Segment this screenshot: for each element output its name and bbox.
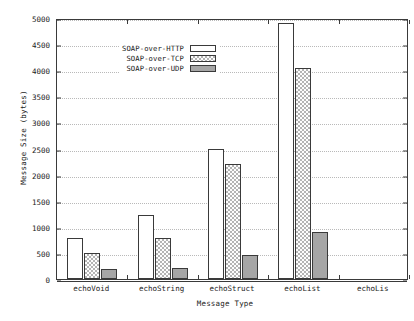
bar	[295, 68, 311, 279]
y-tick-label: 500	[0, 249, 50, 258]
x-tick-mark	[409, 275, 410, 279]
x-axis-title: Message Type	[55, 299, 395, 308]
bar	[155, 238, 171, 279]
y-tick-label: 1000	[0, 223, 50, 232]
bar	[278, 23, 294, 279]
x-tick-mark	[339, 275, 340, 279]
plot-area: SOAP-over-HTTP SOAP-over-TCP SOAP-over-U…	[56, 19, 408, 280]
legend-swatch-icon	[190, 65, 216, 72]
x-tick-label: echoList	[284, 284, 320, 293]
x-tick-mark	[127, 275, 128, 279]
x-tick-mark	[198, 20, 199, 24]
y-tick-label: 4500	[0, 41, 50, 50]
x-tick-mark	[268, 275, 269, 279]
bar	[172, 268, 188, 279]
y-tick-label: 2000	[0, 171, 50, 180]
x-tick-mark	[268, 20, 269, 24]
legend-swatch-icon	[190, 45, 216, 52]
bar	[84, 253, 100, 279]
x-tick-label: echoVoid	[73, 284, 109, 293]
x-tick-mark	[339, 20, 340, 24]
y-tick-label: 0	[0, 276, 50, 285]
legend-label: SOAP-over-HTTP	[122, 44, 184, 53]
legend-swatch-icon	[190, 55, 216, 62]
legend-item: SOAP-over-TCP	[122, 54, 216, 63]
y-tick-label: 3500	[0, 93, 50, 102]
bar	[208, 149, 224, 280]
x-tick-label: echoString	[139, 284, 184, 293]
y-tick-label: 1500	[0, 197, 50, 206]
y-tick-label: 3000	[0, 119, 50, 128]
bar	[312, 232, 328, 279]
y-tick-label: 5000	[0, 15, 50, 24]
bar-series-area	[57, 20, 407, 279]
bar-chart: Message Size (bytes) Message Type SOAP-o…	[0, 0, 414, 321]
y-tick-mark	[57, 281, 61, 282]
bar	[138, 215, 154, 279]
gridline	[57, 281, 407, 282]
x-tick-label: echoLis	[357, 284, 389, 293]
x-tick-mark	[127, 20, 128, 24]
y-axis-title: Message Size (bytes)	[19, 68, 28, 208]
y-tick-mark	[403, 281, 407, 282]
x-tick-label: echoStruct	[209, 284, 254, 293]
bar	[225, 164, 241, 279]
bar	[242, 255, 258, 279]
legend-label: SOAP-over-TCP	[126, 54, 184, 63]
x-tick-mark	[198, 275, 199, 279]
legend-item: SOAP-over-HTTP	[122, 44, 216, 53]
legend: SOAP-over-HTTP SOAP-over-TCP SOAP-over-U…	[119, 42, 219, 77]
y-tick-label: 4000	[0, 67, 50, 76]
bar	[67, 238, 83, 279]
x-tick-mark	[409, 20, 410, 24]
y-tick-label: 2500	[0, 145, 50, 154]
legend-item: SOAP-over-UDP	[122, 64, 216, 73]
legend-label: SOAP-over-UDP	[126, 64, 184, 73]
bar	[101, 269, 117, 279]
